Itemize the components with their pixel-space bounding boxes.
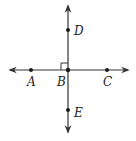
point-C bbox=[105, 68, 109, 72]
label-D: D bbox=[73, 24, 84, 38]
point-A bbox=[29, 68, 33, 72]
label-B: B bbox=[56, 75, 66, 89]
point-B bbox=[66, 68, 70, 72]
label-C: C bbox=[103, 75, 112, 89]
label-E: E bbox=[73, 106, 83, 120]
labels-group: A B C D E bbox=[26, 24, 112, 120]
point-D bbox=[66, 28, 70, 32]
point-E bbox=[66, 108, 70, 112]
label-A: A bbox=[26, 75, 36, 89]
geometry-diagram: A B C D E bbox=[0, 0, 136, 141]
